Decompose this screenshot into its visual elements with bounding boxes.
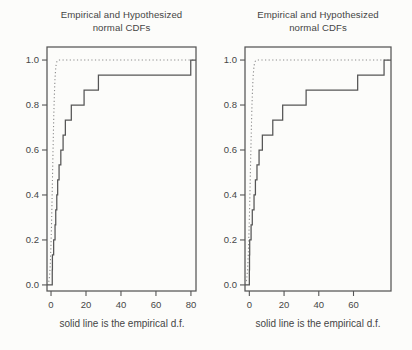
left-plot-title-line1: Empirical and Hypothesized — [40, 9, 203, 22]
plot-box — [245, 47, 391, 291]
x-axis-tick-label: 40 — [313, 299, 324, 310]
y-axis-tick-label: 0.8 — [26, 99, 39, 110]
hypothesized-normal-cdf-curve — [245, 60, 391, 284]
y-axis-tick-label: 0.2 — [26, 234, 39, 245]
x-axis-tick-label: 20 — [81, 299, 92, 310]
empirical-cdf-step-line — [47, 60, 196, 285]
y-axis-tick-label: 0.6 — [224, 144, 237, 155]
right-plot-area: 02040600.00.20.40.60.81.0 — [224, 47, 391, 310]
y-axis-tick-label: 1.0 — [26, 54, 39, 65]
y-axis-tick-label: 0.0 — [224, 279, 237, 290]
y-axis-tick-label: 0.8 — [224, 99, 237, 110]
y-axis-tick-label: 0.2 — [224, 234, 237, 245]
charts-canvas: 0204060800.00.20.40.60.81.002040600.00.2… — [0, 0, 412, 350]
x-axis-tick-label: 60 — [348, 299, 359, 310]
empirical-cdf-step-line — [245, 60, 391, 285]
x-axis-tick-label: 0 — [247, 299, 252, 310]
left-plot-caption: solid line is the empirical d.f. — [29, 318, 215, 329]
y-axis-tick-label: 1.0 — [224, 54, 237, 65]
right-plot-caption: solid line is the empirical d.f. — [225, 318, 411, 329]
left-plot-title-line2: normal CDFs — [40, 22, 203, 35]
x-axis-tick-label: 0 — [48, 299, 53, 310]
right-plot-title-line1: Empirical and Hypothesized — [238, 9, 398, 22]
plot-box — [47, 47, 196, 291]
left-plot-title: Empirical and Hypothesized normal CDFs — [40, 9, 203, 34]
x-axis-tick-label: 80 — [186, 299, 197, 310]
x-axis-tick-label: 40 — [116, 299, 127, 310]
y-axis-tick-label: 0.0 — [26, 279, 39, 290]
cdf-comparison-figure: 0204060800.00.20.40.60.81.002040600.00.2… — [0, 0, 412, 350]
left-plot-area: 0204060800.00.20.40.60.81.0 — [26, 47, 196, 310]
x-axis-tick-label: 20 — [279, 299, 290, 310]
y-axis-tick-label: 0.4 — [26, 189, 39, 200]
right-plot-title-line2: normal CDFs — [238, 22, 398, 35]
hypothesized-normal-cdf-curve — [47, 60, 196, 285]
y-axis-tick-label: 0.4 — [224, 189, 237, 200]
x-axis-tick-label: 60 — [151, 299, 162, 310]
right-plot-title: Empirical and Hypothesized normal CDFs — [238, 9, 398, 34]
y-axis-tick-label: 0.6 — [26, 144, 39, 155]
